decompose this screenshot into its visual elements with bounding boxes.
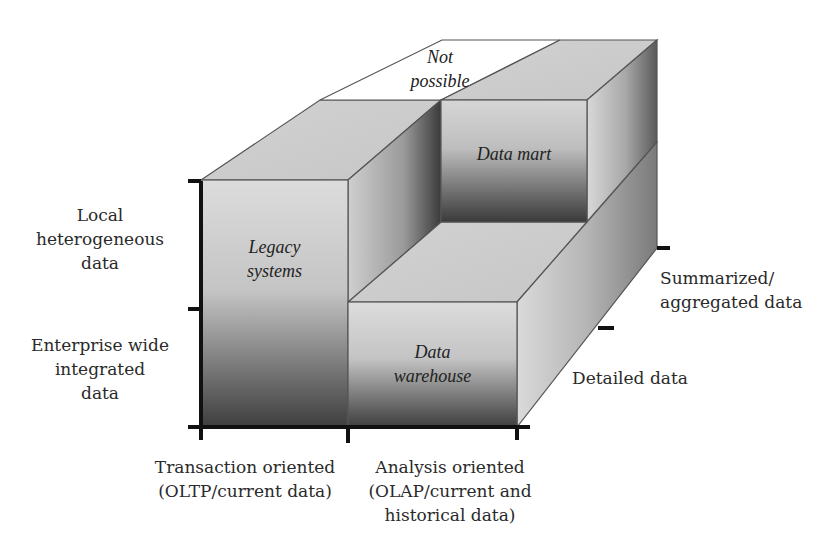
vertical-axis-label-local: Local heterogeneous data [20,203,180,275]
data-warehouse-line-1: Data [348,340,517,364]
enterprise-line-3: data [20,381,180,405]
local-line-3: data [20,251,180,275]
cell-label-legacy-systems: Legacy systems [201,235,348,283]
data-warehouse-line-2: warehouse [348,364,517,388]
enterprise-line-2: integrated [20,357,180,381]
horizontal-axis-label-analysis: Analysis oriented (OLAP/current and hist… [360,455,540,527]
cell-label-data-mart: Data mart [441,142,587,166]
data-mart-line-1: Data mart [441,142,587,166]
not-possible-line-1: Not [380,45,500,69]
horizontal-axis-label-transaction: Transaction oriented (OLTP/current data) [145,455,345,503]
not-possible-line-2: possible [380,69,500,93]
legacy-line-1: Legacy [201,235,348,259]
cell-label-not-possible: Not possible [380,45,500,93]
vertical-axis-label-enterprise: Enterprise wide integrated data [20,333,180,405]
local-line-2: heterogeneous [20,227,180,251]
depth-axis-label-summarized: Summarized/ aggregated data [660,266,830,314]
local-line-1: Local [20,203,180,227]
transaction-line-2: (OLTP/current data) [145,479,345,503]
summarized-line-2: aggregated data [660,290,830,314]
summarized-line-1: Summarized/ [660,266,830,290]
analysis-line-2: (OLAP/current and [360,479,540,503]
analysis-line-1: Analysis oriented [360,455,540,479]
analysis-line-3: historical data) [360,503,540,527]
detailed-line-1: Detailed data [572,366,722,390]
transaction-line-1: Transaction oriented [145,455,345,479]
enterprise-line-1: Enterprise wide [20,333,180,357]
legacy-line-2: systems [201,259,348,283]
depth-axis-label-detailed: Detailed data [572,366,722,390]
front-face-legacy [201,180,348,427]
cell-label-data-warehouse: Data warehouse [348,340,517,388]
